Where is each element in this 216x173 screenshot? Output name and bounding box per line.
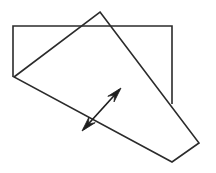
- rectangle-outline: [13, 26, 172, 104]
- figure-root: Overlapping rectangle and rotated quadri…: [0, 0, 216, 173]
- geometry-diagram: Overlapping rectangle and rotated quadri…: [0, 0, 216, 173]
